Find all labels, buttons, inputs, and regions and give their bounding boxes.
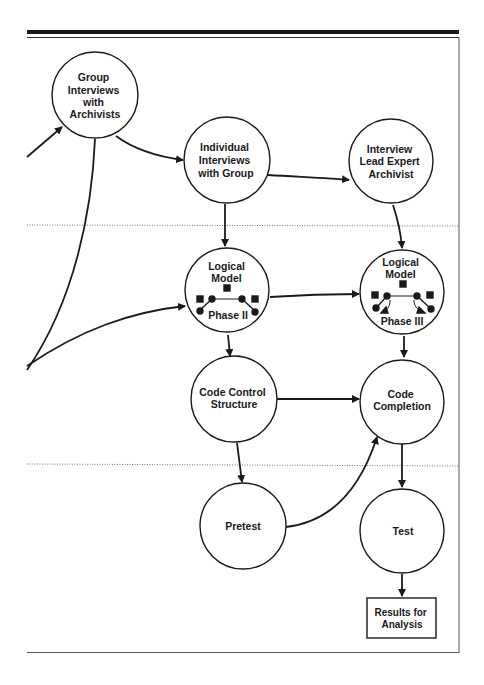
phase-divider-2 — [27, 464, 459, 466]
node-dot-icon — [197, 308, 203, 314]
arrow-group-to-individual — [116, 136, 183, 160]
node-results — [367, 598, 436, 638]
label-test: Test — [393, 525, 414, 537]
node-dot-icon — [252, 309, 258, 315]
workflow-diagram: Group Interviews with Archivists Individ… — [0, 0, 484, 685]
node-dot-icon — [209, 296, 215, 302]
square-icon — [224, 285, 230, 291]
arrow-codecontrol-to-pretest — [237, 443, 242, 482]
label-interview-lead: Interview Lead Expert Archivist — [359, 143, 422, 180]
square-icon — [197, 296, 203, 302]
arrow-logical2-to-codecontrol — [228, 335, 230, 356]
phase-divider-1 — [27, 225, 459, 226]
arrow-lead-to-logical3 — [393, 205, 402, 248]
arrow-logical2-to-logical3 — [270, 294, 359, 297]
line-group-to-left — [27, 139, 95, 370]
label-pretest: Pretest — [225, 520, 261, 532]
square-icon — [427, 292, 433, 298]
label-individual-interviews: Individual Interviews with Group — [197, 141, 253, 179]
top-thick-rule — [27, 30, 459, 34]
arrow-into-group-interviews — [27, 127, 62, 157]
label-results: Results for Analysis — [374, 607, 429, 630]
arrow-individual-to-lead — [268, 175, 349, 180]
square-icon — [400, 281, 406, 287]
arrow-into-logical2 — [27, 306, 185, 366]
square-icon — [372, 292, 378, 298]
node-dot-icon — [239, 296, 245, 302]
square-icon — [252, 296, 258, 302]
